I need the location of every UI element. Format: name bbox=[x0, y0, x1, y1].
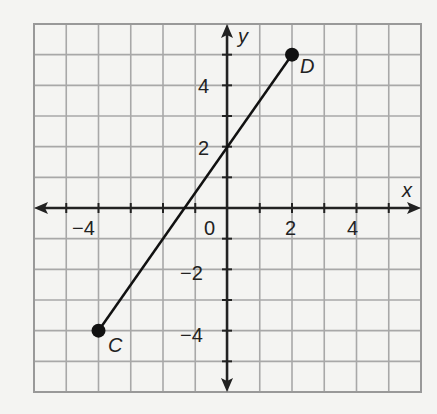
y-tick-label-neg4: −4 bbox=[180, 324, 203, 346]
point-c bbox=[92, 324, 106, 338]
y-tick-label-neg2: −2 bbox=[180, 262, 203, 284]
point-d bbox=[285, 48, 299, 62]
x-axis-label: x bbox=[401, 179, 413, 201]
y-tick-label-2: 2 bbox=[198, 137, 209, 159]
origin-label: 0 bbox=[204, 217, 215, 239]
point-c-label: C bbox=[108, 334, 123, 356]
point-d-label: D bbox=[300, 55, 314, 77]
x-tick-label-2: 2 bbox=[285, 217, 296, 239]
x-tick-label-neg4: −4 bbox=[72, 217, 95, 239]
coordinate-plane: y x 0 −4 2 4 4 2 −2 −4 C D bbox=[0, 0, 437, 414]
y-axis-label: y bbox=[236, 25, 249, 47]
x-tick-label-4: 4 bbox=[347, 217, 358, 239]
y-tick-label-4: 4 bbox=[198, 75, 209, 97]
